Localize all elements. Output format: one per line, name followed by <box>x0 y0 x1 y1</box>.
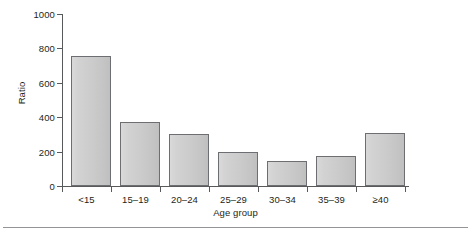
x-tick-label-15-19: 15–19 <box>111 194 160 205</box>
x-axis-tick-4 <box>258 187 259 192</box>
bar-age-15-19 <box>120 122 160 186</box>
x-tick-label-35-39: 35–39 <box>307 194 356 205</box>
plot-area <box>62 14 408 186</box>
x-tick-label-20-24: 20–24 <box>160 194 209 205</box>
y-axis-tick-labels: 1000 800 600 400 200 0 <box>8 0 55 237</box>
y-tick-label-200: 200 <box>13 148 55 158</box>
y-tick-label-0: 0 <box>13 182 55 192</box>
bar-age-35-39 <box>316 156 356 186</box>
x-axis-tick-6 <box>356 187 357 192</box>
x-axis-tick-7 <box>405 187 406 192</box>
bar-age-25-29 <box>218 152 258 186</box>
x-axis-tick-0 <box>62 187 63 192</box>
x-axis-tick-5 <box>307 187 308 192</box>
x-tick-label-40-plus: ≥40 <box>356 194 405 205</box>
bar-age-30-34 <box>267 161 307 186</box>
x-axis-title: Age group <box>0 207 471 218</box>
x-tick-label-under-15: <15 <box>62 194 111 205</box>
bar-age-20-24 <box>169 134 209 186</box>
x-axis-tick-2 <box>160 187 161 192</box>
x-axis-tick-3 <box>209 187 210 192</box>
x-tick-label-25-29: 25–29 <box>209 194 258 205</box>
bar-chart-figure: 1000 800 600 400 200 0 Ratio <15 15–19 2… <box>0 0 471 237</box>
y-axis-title: Ratio <box>17 63 27 123</box>
bar-age-40-plus <box>365 133 405 186</box>
bar-age-under-15 <box>71 56 111 186</box>
bottom-divider <box>3 227 468 228</box>
y-tick-label-800: 800 <box>13 44 55 54</box>
y-tick-label-1000: 1000 <box>13 10 55 20</box>
x-axis-tick-1 <box>111 187 112 192</box>
x-tick-label-30-34: 30–34 <box>258 194 307 205</box>
